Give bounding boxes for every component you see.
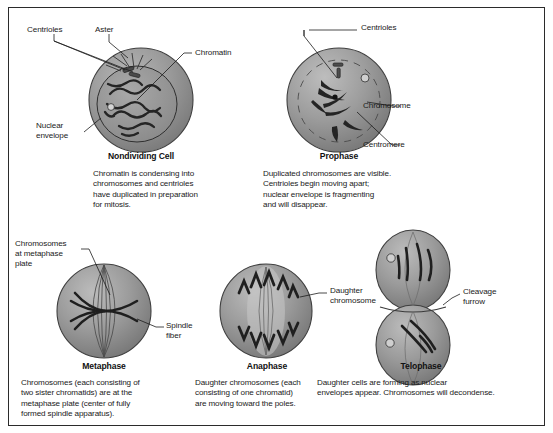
label-nuclear-envelope: Nuclear envelope xyxy=(36,121,68,141)
nucleolus-bottom xyxy=(386,339,394,347)
panel-nondividing-cell: Centrioles Aster Chromatin Nuclear envel… xyxy=(9,8,259,223)
phase-title-prophase: Prophase xyxy=(269,151,409,161)
nucleolus-top xyxy=(387,254,395,262)
phase-title-metaphase: Metaphase xyxy=(34,361,174,371)
label-spindle-fiber: Spindle fiber xyxy=(166,321,192,341)
mitosis-figure: Centrioles Aster Chromatin Nuclear envel… xyxy=(8,7,545,426)
panel-prophase: Centrioles Chromosome Centromere Prophas… xyxy=(249,8,546,223)
label-centrioles-nondividing: Centrioles xyxy=(27,25,62,35)
label-centromere: Centromere xyxy=(363,140,405,150)
nucleolus xyxy=(361,74,369,82)
panel-telophase: Cleavage furrow Telophase Daughter cells… xyxy=(344,208,546,427)
panel-metaphase: Chromosomes at metaphase plate Spindle f… xyxy=(9,223,209,427)
caption-nondividing-cell: Chromatin is condensing into chromosomes… xyxy=(93,169,228,211)
phase-title-nondividing-cell: Nondividing Cell xyxy=(71,151,211,161)
caption-telophase: Daughter cells are forming as nuclear en… xyxy=(317,378,542,399)
phase-title-anaphase: Anaphase xyxy=(197,361,337,371)
nucleolus xyxy=(108,104,115,111)
label-chromatin: Chromatin xyxy=(195,48,231,58)
leader-lines xyxy=(443,294,460,305)
caption-prophase: Duplicated chromosomes are visible. Cent… xyxy=(263,169,423,211)
daughter-cell-top xyxy=(376,230,450,310)
caption-metaphase: Chromosomes (each consisting of two sist… xyxy=(21,378,181,420)
phase-title-telophase: Telophase xyxy=(351,361,491,371)
label-aster: Aster xyxy=(95,25,113,35)
label-chromosome: Chromosome xyxy=(363,101,411,111)
label-cleavage-furrow: Cleavage furrow xyxy=(463,287,496,307)
centromere-marker xyxy=(332,94,337,99)
label-chromosomes-at-metaphase-plate: Chromosomes at metaphase plate xyxy=(15,239,67,269)
label-centrioles-prophase: Centrioles xyxy=(361,23,396,33)
